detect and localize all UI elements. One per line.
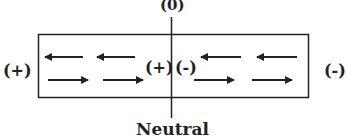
- top-label: (0): [160, 0, 185, 13]
- center-right-label: (-): [175, 60, 197, 76]
- right-outer-label: (-): [324, 63, 346, 79]
- left-outer-label: (+): [3, 63, 32, 79]
- center-left-label: (+): [145, 60, 174, 76]
- bottom-label: Neutral: [136, 121, 209, 138]
